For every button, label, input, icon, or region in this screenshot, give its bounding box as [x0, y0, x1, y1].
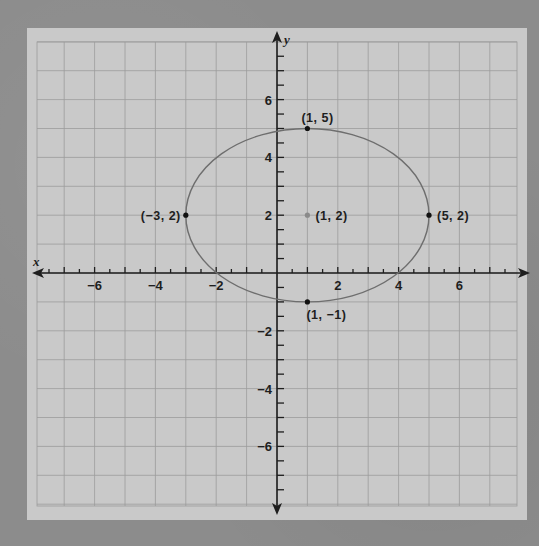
point-marker: (1, 5): [301, 111, 333, 132]
x-tick-label: −2: [209, 278, 224, 293]
x-tick-label: 6: [456, 278, 463, 293]
point-marker: (−3, 2): [141, 209, 189, 223]
point-marker: (1, 2): [305, 209, 348, 223]
x-tick-label: 4: [395, 278, 403, 293]
labeled-points: (1, 5)(−3, 2)(5, 2)(1, −1)(1, 2): [141, 111, 469, 322]
x-tick-label: 2: [334, 278, 341, 293]
point-marker: (1, −1): [305, 299, 347, 322]
point-dot-icon: [305, 299, 310, 304]
point-label: (5, 2): [437, 209, 469, 223]
point-marker: (5, 2): [426, 209, 469, 223]
y-tick-label: −6: [257, 439, 272, 454]
graph-figure: −6−4−2246642−2−4−6 (1, 5)(−3, 2)(5, 2)(1…: [0, 0, 539, 546]
point-dot-icon: [426, 213, 431, 218]
axes: [32, 31, 530, 515]
y-tick-label: 4: [265, 150, 273, 165]
point-label: (1, −1): [306, 308, 346, 322]
y-tick-label: −4: [257, 382, 273, 397]
y-tick-label: −2: [257, 324, 272, 339]
x-tick-label: −6: [87, 278, 102, 293]
y-tick-label: 2: [265, 208, 272, 223]
point-label: (1, 5): [301, 111, 333, 125]
point-dot-icon: [305, 213, 310, 218]
y-tick-label: 6: [265, 93, 272, 108]
point-dot-icon: [183, 213, 188, 218]
x-tick-label: −4: [148, 278, 164, 293]
point-label: (−3, 2): [141, 209, 181, 223]
point-label: (1, 2): [315, 209, 347, 223]
y-axis-label: y: [282, 32, 290, 47]
coordinate-plane: −6−4−2246642−2−4−6 (1, 5)(−3, 2)(5, 2)(1…: [0, 0, 539, 546]
x-axis-label: x: [32, 254, 40, 269]
point-dot-icon: [305, 126, 310, 131]
